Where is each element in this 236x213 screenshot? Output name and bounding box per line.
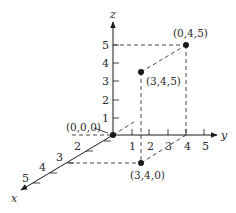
y-tick-3: 3 bbox=[165, 140, 172, 153]
y-tick-2: 2 bbox=[147, 140, 154, 153]
x-tick-2: 2 bbox=[74, 140, 81, 153]
z-axis-label: z bbox=[109, 8, 116, 21]
x-tick-5: 5 bbox=[22, 172, 29, 185]
z-tick-3: 3 bbox=[102, 75, 109, 88]
point-label-origin: (0,0,0) bbox=[66, 121, 101, 133]
x-axis-label: x bbox=[11, 192, 18, 205]
y-tick-5: 5 bbox=[202, 140, 209, 153]
y-tick-1: 1 bbox=[129, 140, 136, 153]
z-axis: z 1 2 3 4 5 bbox=[102, 8, 119, 135]
point-label-3-4-5: (3,4,5) bbox=[146, 75, 181, 87]
point-label-3-4-0: (3,4,0) bbox=[130, 169, 165, 181]
z-tick-5: 5 bbox=[102, 39, 109, 52]
z-tick-1: 1 bbox=[102, 112, 109, 125]
x-tick-4: 4 bbox=[39, 161, 46, 174]
y-axis-label: y bbox=[220, 129, 228, 142]
x-tick-3: 3 bbox=[56, 151, 63, 164]
point-label-0-4-5: (0,4,5) bbox=[173, 27, 208, 39]
z-tick-4: 4 bbox=[102, 57, 109, 70]
point-3-4-5: (3,4,5) bbox=[138, 69, 181, 87]
coordinate-diagram: z 1 2 3 4 5 y 1 2 3 4 5 x 2 3 4 5 bbox=[0, 0, 236, 213]
y-tick-4: 4 bbox=[184, 140, 191, 153]
z-tick-2: 2 bbox=[102, 94, 109, 107]
